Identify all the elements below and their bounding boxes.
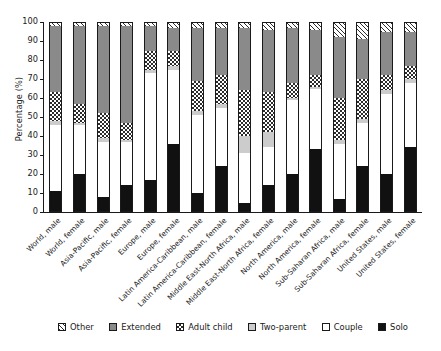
bar-3[interactable]	[120, 22, 133, 212]
legend-swatch-icon	[322, 323, 330, 331]
bar-segment-other	[73, 22, 86, 26]
stacked-bar-chart: Percentage (%) 0102030405060708090100 Wo…	[0, 0, 441, 351]
legend-label: Two-parent	[260, 322, 306, 332]
bar-segment-other	[356, 22, 369, 39]
y-tick-90: 90	[22, 41, 44, 42]
bar-segment-adult-child	[286, 98, 299, 100]
bar-segment-solo	[238, 203, 251, 213]
bar-6[interactable]	[191, 22, 204, 212]
bar-segment-other	[49, 22, 62, 26]
bar-segment-couple	[262, 147, 275, 185]
y-tick-label: 20	[28, 168, 38, 178]
bar-segment-two-parent	[356, 39, 369, 79]
y-tick-label: 50	[28, 111, 38, 121]
y-tick-30: 30	[22, 155, 44, 156]
legend-swatch-icon	[176, 323, 184, 331]
bar-segment-other	[333, 22, 346, 37]
bar-segment-couple	[144, 73, 157, 179]
legend-item-other[interactable]: Other	[58, 322, 94, 332]
bar-11[interactable]	[309, 22, 322, 212]
bar-segment-adult-child	[191, 111, 204, 115]
y-tick-label: 0	[33, 206, 38, 216]
bar-9[interactable]	[262, 22, 275, 212]
bar-10[interactable]	[286, 22, 299, 212]
bar-segment-two-parent	[167, 28, 180, 51]
legend-swatch-icon	[109, 323, 117, 331]
bar-segment-solo	[286, 174, 299, 212]
legend-swatch-icon	[378, 323, 386, 331]
y-tick-label: 70	[28, 73, 38, 83]
bar-segment-extended	[238, 90, 251, 136]
y-tick-label: 100	[22, 16, 38, 26]
bar-14[interactable]	[380, 22, 393, 212]
legend-item-adult-child[interactable]: Adult child	[176, 322, 232, 332]
legend-item-extended[interactable]: Extended	[109, 322, 161, 332]
bar-segment-extended	[380, 75, 393, 90]
bar-segment-solo	[73, 174, 86, 212]
bar-segment-other	[262, 22, 275, 30]
bar-segment-two-parent	[333, 37, 346, 98]
bar-segment-couple	[380, 94, 393, 174]
legend-item-couple[interactable]: Couple	[322, 322, 363, 332]
bar-15[interactable]	[404, 22, 417, 212]
bar-segment-adult-child	[215, 104, 228, 108]
bar-segment-adult-child	[238, 136, 251, 153]
bar-segment-couple	[167, 70, 180, 144]
bar-segment-solo	[380, 174, 393, 212]
bar-segment-other	[191, 22, 204, 28]
bar-12[interactable]	[333, 22, 346, 212]
bar-segment-extended	[356, 79, 369, 119]
bar-2[interactable]	[97, 22, 110, 212]
legend-label: Extended	[121, 322, 161, 332]
y-tick-mark	[40, 41, 44, 42]
chart-legend: OtherExtendedAdult childTwo-parentCouple…	[58, 319, 408, 335]
bar-segment-extended	[404, 66, 417, 79]
bar-4[interactable]	[144, 22, 157, 212]
bar-segment-two-parent	[97, 26, 110, 113]
y-tick-label: 10	[28, 187, 38, 197]
bar-segment-couple	[404, 83, 417, 148]
legend-label: Couple	[334, 322, 363, 332]
legend-item-solo[interactable]: Solo	[378, 322, 408, 332]
bar-segment-adult-child	[380, 90, 393, 94]
bar-segment-couple	[49, 125, 62, 192]
bar-0[interactable]	[49, 22, 62, 212]
bar-segment-extended	[120, 123, 133, 140]
bar-segment-two-parent	[191, 28, 204, 81]
bar-segment-extended	[333, 98, 346, 140]
y-tick-70: 70	[22, 79, 44, 80]
bar-13[interactable]	[356, 22, 369, 212]
legend-label: Other	[70, 322, 94, 332]
bar-segment-solo	[49, 191, 62, 212]
bar-segment-couple	[286, 100, 299, 174]
bar-segment-other	[238, 22, 251, 28]
y-tick-label: 80	[28, 54, 38, 64]
bar-segment-extended	[215, 75, 228, 104]
bar-segment-adult-child	[97, 138, 110, 142]
bar-1[interactable]	[73, 22, 86, 212]
y-tick-label: 40	[28, 130, 38, 140]
bar-segment-adult-child	[120, 140, 133, 142]
bar-segment-other	[97, 22, 110, 26]
bar-segment-two-parent	[120, 26, 133, 123]
y-tick-mark	[40, 117, 44, 118]
bar-segment-solo	[333, 199, 346, 212]
bar-segment-two-parent	[404, 32, 417, 66]
bar-8[interactable]	[238, 22, 251, 212]
bar-segment-extended	[167, 51, 180, 66]
y-tick-mark	[40, 212, 44, 213]
bar-segment-extended	[97, 113, 110, 138]
legend-item-two-parent[interactable]: Two-parent	[248, 322, 306, 332]
bar-segment-two-parent	[144, 26, 157, 51]
bar-7[interactable]	[215, 22, 228, 212]
bar-segment-solo	[167, 144, 180, 212]
bar-segment-couple	[97, 142, 110, 197]
bar-5[interactable]	[167, 22, 180, 212]
bar-segment-solo	[144, 180, 157, 212]
bar-segment-other	[286, 22, 299, 28]
y-tick-mark	[40, 98, 44, 99]
bar-segment-couple	[191, 115, 204, 193]
bar-segment-couple	[238, 153, 251, 202]
bar-segment-two-parent	[238, 28, 251, 91]
bar-segment-two-parent	[309, 30, 322, 76]
